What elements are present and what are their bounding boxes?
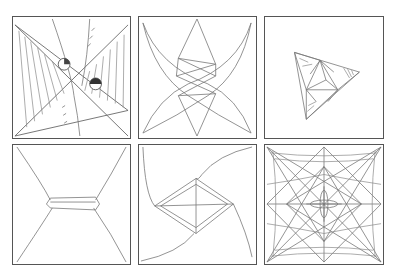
hourglass-drawing <box>13 145 130 264</box>
panel-crossed-leaves: crossed-leaves-with-star <box>138 16 257 139</box>
panel-diamond: diamond-with-curves <box>138 144 257 265</box>
panel-radial-star: radial-star-grid <box>264 144 384 265</box>
panel-triangular-fold: triangular-fold-pattern <box>264 16 384 139</box>
radial-star-drawing <box>265 145 383 264</box>
panel-hatched-bowtie: hatched-bowtie-with-circles <box>12 16 131 139</box>
diamond-drawing <box>139 145 256 264</box>
panel-hourglass: hourglass-with-bar <box>12 144 131 265</box>
hatched-bowtie-drawing <box>13 17 130 138</box>
crossed-leaves-drawing <box>139 17 256 138</box>
triangular-fold-drawing <box>265 17 383 138</box>
